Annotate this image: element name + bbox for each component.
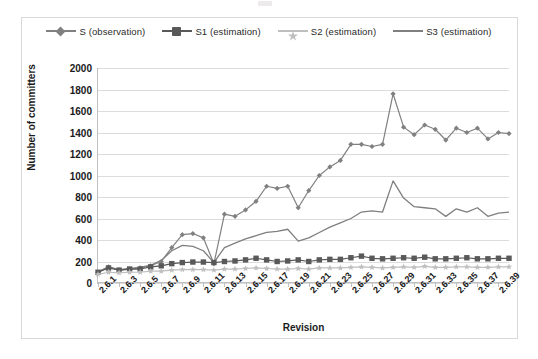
data-point	[253, 265, 259, 271]
data-point	[295, 265, 301, 271]
data-point	[338, 257, 343, 262]
data-point	[506, 256, 511, 261]
data-point	[222, 212, 227, 217]
data-point	[306, 266, 312, 272]
chart-legend: S (observation)S1 (estimation)S2 (estima…	[34, 22, 504, 40]
data-point	[232, 214, 237, 219]
y-tick-label: 1800	[46, 84, 92, 95]
data-point	[464, 255, 469, 260]
data-point	[169, 267, 175, 273]
data-point	[158, 268, 164, 274]
data-point	[285, 266, 291, 272]
data-point	[232, 258, 237, 263]
y-tick-label: 1000	[46, 170, 92, 181]
data-point	[221, 266, 227, 272]
data-point	[390, 91, 395, 96]
legend-label: S (observation)	[79, 26, 145, 37]
data-point	[369, 264, 375, 270]
data-point	[495, 264, 501, 270]
scan-artifact	[0, 0, 538, 14]
legend-entry[interactable]: S1 (estimation)	[162, 25, 260, 37]
data-point	[306, 259, 311, 264]
y-tick-label: 1200	[46, 149, 92, 160]
data-point	[496, 130, 501, 135]
data-point	[390, 264, 396, 270]
data-point	[432, 264, 438, 270]
data-point	[264, 257, 269, 262]
data-point	[380, 256, 385, 261]
y-tick-label: 1400	[46, 127, 92, 138]
data-point	[379, 265, 385, 271]
data-point	[211, 267, 217, 273]
data-point	[337, 265, 343, 271]
legend-marker-square-icon	[162, 25, 192, 37]
data-point	[474, 264, 480, 270]
data-point	[359, 142, 364, 147]
series-canvas	[98, 68, 509, 283]
y-tick-label: 200	[46, 256, 92, 267]
data-point	[296, 257, 301, 262]
legend-entry[interactable]: S3 (estimation)	[393, 25, 491, 37]
legend-label: S2 (estimation)	[311, 26, 376, 37]
data-point	[485, 256, 490, 261]
data-point	[179, 266, 185, 272]
y-tick-label: 600	[46, 213, 92, 224]
data-point	[348, 264, 354, 270]
data-point	[422, 263, 428, 269]
scan-speck	[258, 1, 272, 6]
data-point	[454, 256, 459, 261]
data-point	[369, 144, 374, 149]
data-point	[464, 130, 469, 135]
data-point	[380, 142, 385, 147]
data-point	[411, 264, 417, 270]
data-point	[200, 266, 206, 272]
data-point	[159, 263, 164, 268]
data-point	[433, 256, 438, 261]
data-point	[348, 255, 353, 260]
chart-figure: S (observation)S1 (estimation)S2 (estima…	[0, 0, 538, 359]
data-point	[253, 256, 258, 261]
data-point	[475, 256, 480, 261]
data-point	[390, 256, 395, 261]
data-point	[285, 184, 290, 189]
data-point	[201, 235, 206, 240]
data-point	[222, 259, 227, 264]
data-point	[369, 256, 374, 261]
legend-entry[interactable]: S (observation)	[46, 25, 145, 37]
legend-entry[interactable]: S2 (estimation)	[278, 25, 376, 37]
data-point	[327, 265, 333, 271]
data-point	[263, 265, 269, 271]
data-point	[485, 264, 491, 270]
data-point	[443, 256, 448, 261]
data-point	[211, 260, 216, 265]
data-point	[359, 253, 364, 258]
data-point	[411, 256, 416, 261]
data-point	[242, 265, 248, 271]
data-point	[401, 255, 406, 260]
y-axis-tick-labels: 2000180016001400120010008006004002000	[44, 68, 92, 283]
series-line	[98, 94, 509, 273]
legend-marker-star-icon	[278, 25, 308, 37]
data-point	[275, 186, 280, 191]
data-point	[453, 264, 459, 270]
data-point	[285, 258, 290, 263]
legend-label: S3 (estimation)	[426, 26, 491, 37]
y-axis-title: Number of committers	[26, 53, 37, 183]
series-s	[95, 91, 511, 275]
data-point	[317, 257, 322, 262]
data-point	[190, 259, 195, 264]
data-point	[190, 231, 195, 236]
data-point	[422, 255, 427, 260]
plot-area	[98, 68, 509, 283]
data-point	[358, 264, 364, 270]
data-point	[400, 264, 406, 270]
data-point	[169, 261, 174, 266]
data-point	[243, 257, 248, 262]
data-point	[327, 257, 332, 262]
data-point	[464, 264, 470, 270]
y-tick-label: 2000	[46, 63, 92, 74]
y-tick-label: 400	[46, 235, 92, 246]
data-point	[443, 264, 449, 270]
legend-marker-none-icon	[393, 25, 423, 37]
data-point	[201, 259, 206, 264]
